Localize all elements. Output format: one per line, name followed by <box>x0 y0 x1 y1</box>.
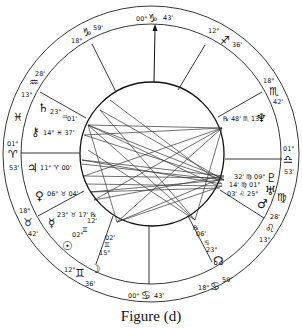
cusp12-degree: 18° <box>263 77 275 85</box>
inner-aspect-circle <box>80 82 224 226</box>
mc-arrow-icon <box>153 24 158 31</box>
cusp7-minute: 42' <box>28 230 38 238</box>
moon-sign: ♊ <box>104 241 110 249</box>
cusp3-degree: 13° <box>259 236 271 244</box>
figure-caption: Figure (d) <box>0 308 302 325</box>
taurus-icon: ♉ <box>23 216 33 229</box>
zodiac-ring-circle <box>21 24 281 284</box>
cusp10-degree: 18° <box>71 37 83 45</box>
ic-degree: 00° <box>128 292 140 300</box>
pluto-icon: ♇ <box>266 171 277 185</box>
mercury-icon: ☿ <box>48 216 55 230</box>
saturn-minute: 01' <box>67 115 77 123</box>
outer-ring-circle <box>3 6 299 302</box>
sun-sign: ♊ <box>82 226 88 234</box>
cusp10-minute: 59' <box>93 24 103 32</box>
cusp12-minute: 42' <box>273 98 283 106</box>
venus-icon: ♀ <box>35 189 44 203</box>
cancer-ic-icon: ♋ <box>141 289 151 302</box>
venus-position: 06° ♉ 04' <box>47 190 79 198</box>
neptune-icon: ♆ <box>256 111 267 125</box>
pluto-position: 32' ♍ 09° <box>234 173 266 181</box>
sagittarius-icon: ♐ <box>220 34 230 47</box>
uranus-icon: ♅ <box>265 184 276 198</box>
sun-icon: ☉ <box>62 239 73 253</box>
mc-minute: 43' <box>163 14 173 22</box>
zodiac-ring-labels: 00° ♑ 43' 12° ♐ 36' 18° ♏ 42' 01° ♎ 53' … <box>7 12 295 302</box>
virgo-icon: ♍ <box>277 191 287 204</box>
cusp6-degree: 12° <box>64 266 76 274</box>
cusp2-minute: 28' <box>270 213 280 221</box>
cusp7-degree: 18° <box>19 207 31 215</box>
moon-icon: ☽ <box>90 262 101 276</box>
desc-degree: 01° <box>283 145 295 153</box>
node-degree: 23° <box>206 246 218 254</box>
moon-degree: 15° <box>99 249 111 257</box>
scorpio-icon: ♏ <box>269 85 279 98</box>
capricorn-icon: ♑ <box>148 12 158 25</box>
cancer-icon: ♋ <box>210 280 220 293</box>
desc-minute: 53' <box>284 168 294 176</box>
cusp6-minute: 36' <box>85 280 95 288</box>
aries-icon: ♈ <box>8 148 18 161</box>
leo-icon: ♌ <box>265 222 275 235</box>
aspect-lines <box>82 100 224 222</box>
capricorn-cusp-icon: ♑ <box>82 26 92 39</box>
saturn-degree: 23° <box>50 108 62 116</box>
sun-minute: 12' <box>87 217 97 225</box>
node-minute: 06' <box>196 230 206 238</box>
cusp11-degree: 12° <box>208 27 220 35</box>
chiron-icon: ⚷ <box>31 125 40 139</box>
uranus-position: 14' ♍ 01° <box>229 181 261 189</box>
mc-degree: 00° <box>136 15 148 23</box>
cusp11-minute: 36' <box>232 41 242 49</box>
mc-axis-line <box>154 28 155 82</box>
north-node-icon: ☊ <box>213 254 224 268</box>
pisces-icon: ♓ <box>13 111 23 124</box>
asc-degree: 01° <box>7 140 19 148</box>
natal-chart-wheel: 00° ♑ 43' 12° ♐ 36' 18° ♏ 42' 01° ♎ 53' … <box>0 0 302 308</box>
cusp5-degree: 18° <box>198 284 210 292</box>
chiron-position: 14° ♓ 37' <box>43 129 75 137</box>
asc-minute: 53' <box>9 164 19 172</box>
jupiter-icon: ♃ <box>27 161 38 175</box>
cusp8-degree: 13° <box>21 91 33 99</box>
mars-position: 03' ♌ 25° <box>227 190 259 198</box>
gemini-icon: ♊ <box>75 267 85 280</box>
libra-icon: ♎ <box>283 153 293 166</box>
saturn-icon: ♄ <box>38 101 49 115</box>
mars-icon: ♂ <box>257 197 268 211</box>
ic-minute: 43' <box>154 292 164 300</box>
jupiter-position: 11° ♈ 00' <box>40 164 72 172</box>
cusp9-minute: 28' <box>35 70 45 78</box>
cusp5-minute: 59' <box>222 276 232 284</box>
